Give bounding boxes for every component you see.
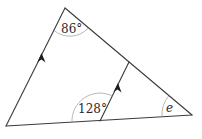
angle-label-e: e: [166, 101, 173, 115]
top-right-edge: [65, 8, 192, 115]
base-edge: [6, 115, 192, 126]
parallel-arrow-icon: [38, 53, 46, 63]
parallel-arrow-icon: [114, 83, 122, 93]
left-edge: [6, 8, 65, 126]
angle-label-interior: 128°: [78, 102, 107, 116]
angle-label-top: 86°: [61, 22, 82, 36]
triangle-diagram: 86° 128° e: [0, 0, 202, 139]
